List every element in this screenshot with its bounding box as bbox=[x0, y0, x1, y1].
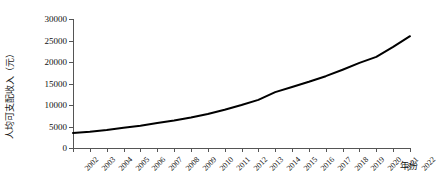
x-tick-label: 2017 bbox=[335, 155, 353, 173]
x-tick-label: 2005 bbox=[133, 155, 151, 173]
x-tick-mark bbox=[393, 148, 394, 152]
x-tick-mark bbox=[326, 148, 327, 152]
x-tick-label: 2012 bbox=[251, 155, 269, 173]
x-tick-mark bbox=[90, 148, 91, 152]
x-tick-mark bbox=[191, 148, 192, 152]
y-tick-label: 30000 bbox=[45, 14, 68, 24]
x-axis-title: 年份 bbox=[400, 159, 418, 172]
x-tick-mark bbox=[275, 148, 276, 152]
x-tick-label: 2004 bbox=[116, 155, 134, 173]
x-tick-mark bbox=[242, 148, 243, 152]
x-tick-mark bbox=[309, 148, 310, 152]
x-tick-mark bbox=[359, 148, 360, 152]
x-tick-label: 2013 bbox=[268, 155, 286, 173]
x-tick-label: 2007 bbox=[167, 155, 185, 173]
x-tick-label: 2014 bbox=[285, 155, 303, 173]
plot-area: 050001000015000200002500030000 200220032… bbox=[73, 19, 410, 148]
x-tick-mark bbox=[174, 148, 175, 152]
x-tick-label: 2019 bbox=[369, 155, 387, 173]
y-tick-label: 10000 bbox=[45, 100, 68, 110]
x-tick-label: 2016 bbox=[319, 155, 337, 173]
x-tick-label: 2009 bbox=[201, 155, 219, 173]
x-tick-mark bbox=[73, 148, 74, 152]
x-tick-mark bbox=[343, 148, 344, 152]
x-tick-label: 2015 bbox=[302, 155, 320, 173]
x-tick-label: 2006 bbox=[150, 155, 168, 173]
x-tick-mark bbox=[410, 148, 411, 152]
x-tick-label: 2022 bbox=[420, 155, 436, 173]
y-tick-label: 15000 bbox=[45, 79, 68, 89]
x-tick-label: 2010 bbox=[217, 155, 235, 173]
y-tick-label: 0 bbox=[63, 143, 68, 153]
y-tick-label: 20000 bbox=[45, 57, 68, 67]
x-tick-mark bbox=[107, 148, 108, 152]
chart-figure: 人均可支配收入（元） 05000100001500020000250003000… bbox=[0, 0, 436, 188]
x-tick-mark bbox=[208, 148, 209, 152]
x-tick-label: 2011 bbox=[234, 155, 251, 172]
x-tick-label: 2018 bbox=[352, 155, 370, 173]
x-tick-mark bbox=[292, 148, 293, 152]
data-series-line bbox=[73, 19, 410, 148]
x-tick-label: 2008 bbox=[184, 155, 202, 173]
y-tick-label: 25000 bbox=[45, 36, 68, 46]
x-tick-mark bbox=[225, 148, 226, 152]
x-tick-mark bbox=[140, 148, 141, 152]
x-tick-mark bbox=[376, 148, 377, 152]
y-tick-label: 5000 bbox=[49, 122, 67, 132]
y-axis-title: 人均可支配收入（元） bbox=[0, 0, 18, 188]
x-tick-mark bbox=[124, 148, 125, 152]
x-tick-label: 2002 bbox=[83, 155, 101, 173]
x-tick-label: 2003 bbox=[100, 155, 118, 173]
x-tick-mark bbox=[258, 148, 259, 152]
x-tick-mark bbox=[157, 148, 158, 152]
